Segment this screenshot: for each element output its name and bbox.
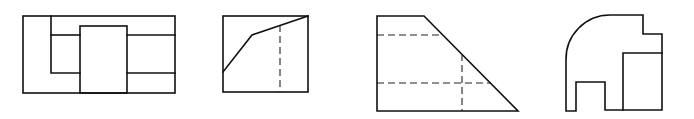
profile-outline <box>566 15 662 111</box>
sloped-edge <box>223 16 308 72</box>
inner-block-edge <box>623 53 662 110</box>
figure-view-3 <box>377 16 518 111</box>
center-block <box>80 26 127 93</box>
visible-edge <box>51 16 80 73</box>
outer-outline <box>223 16 308 92</box>
figure-view-2 <box>223 16 308 92</box>
figure-view-1 <box>23 16 175 93</box>
technical-drawing-canvas <box>0 0 694 119</box>
trapezoid-outline <box>377 16 518 111</box>
outer-outline <box>23 16 175 93</box>
figure-view-4 <box>566 15 662 111</box>
